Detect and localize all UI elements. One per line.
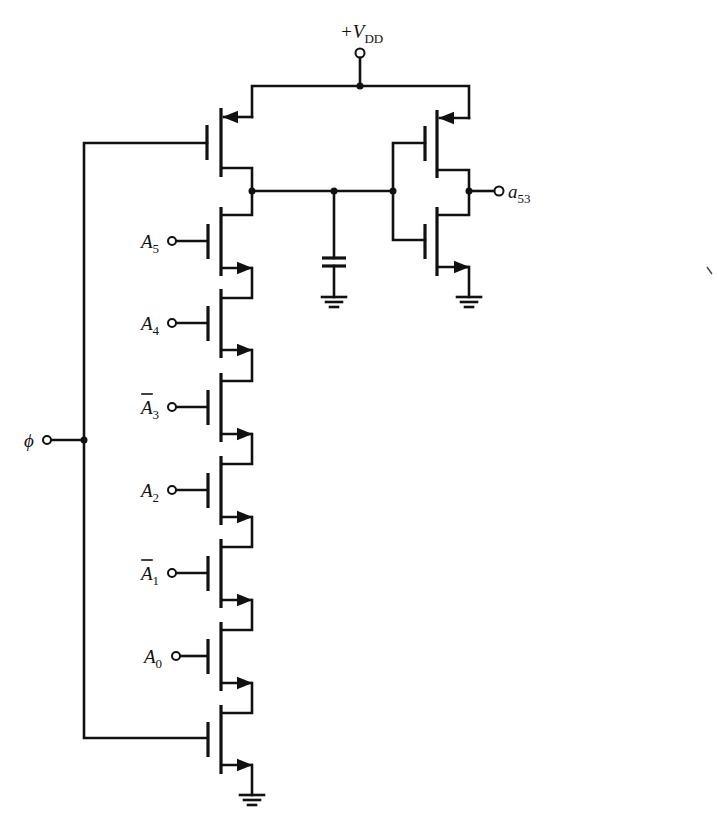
ground-icon: [322, 297, 346, 307]
output-terminal: [495, 187, 504, 196]
label-a3-bar: A3: [139, 397, 159, 422]
clock-net: ϕ: [24, 143, 207, 738]
ground-icon: [240, 795, 264, 805]
label-a5: A5: [139, 231, 159, 256]
nmos-a3-bar: A3: [139, 373, 252, 464]
storage-capacitor: [322, 191, 346, 307]
label-a1-bar: A1: [139, 563, 159, 588]
output-label: a53: [508, 181, 531, 206]
input-terminal-a2: [168, 486, 176, 494]
output-inverter: a53: [393, 110, 531, 307]
nmos-a1-bar: A1: [139, 539, 252, 630]
stray-mark: [707, 267, 712, 274]
input-terminal-a1-bar: [168, 569, 176, 577]
nmos-a4: A4: [139, 289, 252, 381]
schematic: +VDD: [0, 0, 718, 831]
clock-label: ϕ: [24, 430, 34, 451]
vdd-label: +VDD: [340, 21, 383, 46]
label-a0: A0: [142, 646, 162, 671]
label-a4: A4: [139, 313, 160, 338]
input-terminal-a3-bar: [168, 403, 176, 411]
input-terminal-a5: [168, 237, 176, 245]
evaluate-nmos: [208, 705, 264, 805]
nmos-stack: A5 A4 A3: [139, 191, 264, 805]
input-terminal-a0: [172, 652, 180, 660]
nmos-a2: A2: [139, 456, 252, 547]
clock-terminal: [43, 436, 51, 444]
nmos-a0: A0: [142, 622, 252, 713]
ground-icon: [457, 297, 481, 307]
nmos-a5: A5: [139, 207, 252, 298]
label-a2: A2: [139, 480, 159, 505]
input-terminal-a4: [168, 319, 176, 327]
dynamic-node: [249, 188, 397, 195]
precharge-pmos: [207, 108, 252, 191]
vdd-terminal: +VDD: [340, 21, 383, 90]
